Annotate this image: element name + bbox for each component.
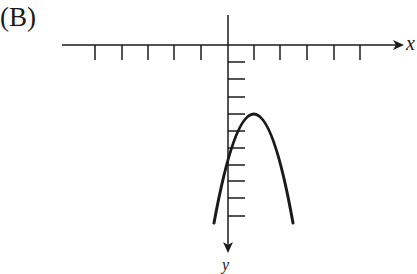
x-axis-label: x — [406, 32, 415, 55]
y-axis-label: y — [222, 256, 229, 274]
y-ticks — [228, 62, 245, 216]
parabola-curve — [214, 114, 293, 223]
